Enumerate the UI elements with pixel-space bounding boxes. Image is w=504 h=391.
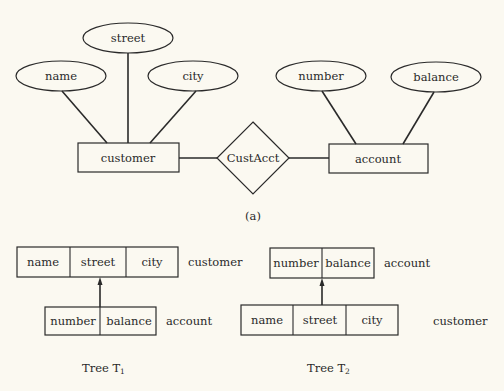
t2-field-number: number [273, 256, 319, 270]
attribute-city-label: city [182, 69, 204, 83]
tree-t1-link [98, 277, 103, 307]
tree-t1-child-record: number balance account [45, 307, 212, 335]
edge-city-customer [150, 91, 196, 143]
t1-field-city: city [141, 255, 163, 269]
t2-root-record-label: account [384, 256, 430, 270]
t2-field-city: city [361, 313, 383, 327]
tree-t2-caption: Tree T2 [307, 361, 350, 376]
attribute-balance-label: balance [413, 70, 459, 84]
t2-field-street: street [303, 313, 338, 327]
t2-field-balance: balance [325, 256, 371, 270]
edge-number-account [322, 91, 356, 144]
tree-t2-child-record: name street city customer [241, 305, 488, 335]
entity-account: account [329, 144, 428, 173]
entity-customer-label: customer [101, 151, 156, 165]
edge-balance-account [403, 92, 434, 144]
attribute-balance: balance [391, 62, 481, 92]
t1-field-number: number [50, 314, 96, 328]
t1-field-street: street [81, 255, 116, 269]
arrow-up-icon [320, 278, 325, 286]
attribute-name: name [16, 61, 106, 91]
relationship-custacct: CustAcct [217, 122, 289, 194]
attribute-number-label: number [298, 69, 344, 83]
t1-field-balance: balance [106, 314, 152, 328]
er-diagram: street name city number balance customer… [16, 23, 481, 223]
relationship-custacct-label: CustAcct [227, 151, 280, 165]
attribute-street-label: street [111, 31, 146, 45]
attribute-number: number [276, 61, 366, 91]
caption-a: (a) [245, 209, 261, 223]
tree-t1-root-record: name street city customer [17, 247, 243, 277]
tree-t2: number balance account name street city … [241, 248, 488, 376]
er-diagram-figure: street name city number balance customer… [0, 0, 504, 391]
tree-t2-link [320, 278, 325, 305]
tree-t1-caption: Tree T1 [82, 361, 125, 376]
t1-root-record-label: customer [188, 255, 243, 269]
t1-child-record-label: account [166, 314, 212, 328]
t1-field-name: name [27, 255, 59, 269]
t2-child-record-label: customer [433, 314, 488, 328]
arrow-up-icon [98, 277, 103, 285]
edge-name-customer [62, 91, 107, 143]
entity-account-label: account [355, 152, 401, 166]
tree-t1: name street city customer number balance… [17, 247, 243, 376]
t2-field-name: name [251, 313, 283, 327]
attribute-street: street [83, 23, 173, 53]
entity-customer: customer [78, 143, 179, 172]
attribute-city: city [148, 61, 238, 91]
tree-t2-root-record: number balance account [270, 248, 430, 278]
attribute-name-label: name [45, 69, 77, 83]
